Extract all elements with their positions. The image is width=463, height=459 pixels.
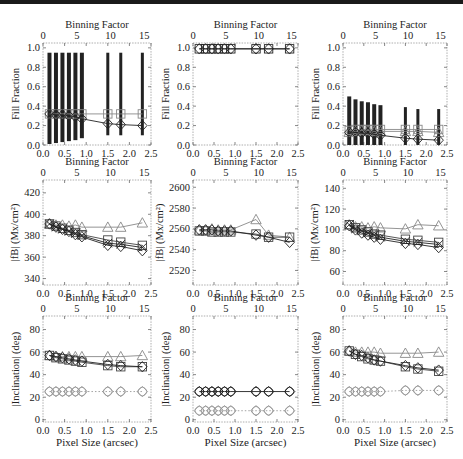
top-tick-label: 15 bbox=[435, 30, 446, 41]
y-tick-label: 80 bbox=[330, 324, 341, 335]
top-tick-label: 15 bbox=[435, 167, 446, 178]
y-tick-label: 0 bbox=[35, 414, 40, 425]
top-tick-label: 0 bbox=[190, 303, 195, 314]
x-tick-label: 1.0 bbox=[228, 425, 241, 436]
x-tick-label: 2.5 bbox=[291, 288, 304, 299]
y-tick-label: 0.4 bbox=[27, 101, 41, 112]
y-tick-label: 1.0 bbox=[177, 42, 190, 53]
y-axis-title: |Inclination| (deg) bbox=[160, 331, 172, 406]
y-tick-label: 380 bbox=[24, 230, 40, 241]
y-tick-label: 0.2 bbox=[177, 120, 190, 131]
top-axis-title: Binning Factor bbox=[214, 292, 278, 303]
top-tick-label: 15 bbox=[286, 30, 297, 41]
x-tick-label: 0.0 bbox=[36, 425, 49, 436]
y-axis-title: |fB| (Mx/cm²) bbox=[9, 203, 21, 261]
plot-frame bbox=[43, 43, 151, 145]
y-tick-label: 0.6 bbox=[177, 81, 190, 92]
top-tick-label: 15 bbox=[286, 303, 297, 314]
y-tick-label: 0.8 bbox=[327, 62, 340, 73]
y-tick-label: 1.0 bbox=[327, 42, 340, 53]
x-tick-label: 2.5 bbox=[440, 425, 453, 436]
top-tick-label: 10 bbox=[403, 167, 414, 178]
y-tick-label: 60 bbox=[330, 266, 341, 277]
x-tick-label: 1.5 bbox=[101, 425, 114, 436]
top-tick-label: 0 bbox=[40, 167, 45, 178]
y-tick-label: 0.2 bbox=[327, 120, 340, 131]
panel-row2-col1: 0.00.51.01.52.02.5051015Binning Factor34… bbox=[9, 156, 158, 299]
top-tick-label: 10 bbox=[253, 167, 264, 178]
y-tick-label: 40 bbox=[330, 369, 341, 380]
panel-row2-col2: 0.00.51.01.52.02.5051015Binning Factor25… bbox=[154, 156, 305, 299]
y-tick-label: 360 bbox=[24, 252, 40, 263]
y-tick-label: 0.6 bbox=[327, 81, 340, 92]
x-tick-label: 0.5 bbox=[58, 425, 71, 436]
y-axis-title: Fill Fraction bbox=[10, 67, 21, 120]
top-axis-title: Binning Factor bbox=[363, 19, 427, 30]
y-tick-label: 20 bbox=[180, 392, 191, 403]
top-tick-label: 10 bbox=[403, 30, 414, 41]
y-tick-label: 0 bbox=[185, 414, 190, 425]
top-tick-label: 0 bbox=[190, 30, 195, 41]
y-tick-label: 2520 bbox=[169, 265, 190, 276]
x-tick-label: 0.0 bbox=[186, 288, 199, 299]
y-tick-label: 340 bbox=[24, 273, 40, 284]
x-axis-title: Pixel Size (arcsec) bbox=[56, 436, 138, 449]
top-tick-label: 10 bbox=[105, 303, 116, 314]
y-tick-label: 2600 bbox=[169, 182, 190, 193]
y-tick-label: 2540 bbox=[169, 244, 190, 255]
top-tick-label: 5 bbox=[373, 30, 378, 41]
panel-row1-col3: 0.00.51.01.52.02.5051015Binning Factor0.… bbox=[310, 19, 454, 159]
top-tick-label: 5 bbox=[373, 303, 378, 314]
x-tick-label: 0.0 bbox=[336, 425, 349, 436]
top-tick-label: 15 bbox=[139, 167, 150, 178]
x-tick-label: 0.0 bbox=[186, 425, 199, 436]
top-tick-label: 15 bbox=[139, 303, 150, 314]
top-tick-label: 0 bbox=[40, 303, 45, 314]
x-tick-label: 2.5 bbox=[291, 425, 304, 436]
top-axis-title: Binning Factor bbox=[363, 292, 427, 303]
y-tick-label: 0 bbox=[335, 414, 340, 425]
y-tick-label: 2560 bbox=[169, 223, 190, 234]
panel-row3-col1: 0.00.51.01.52.02.5051015Binning Factor02… bbox=[10, 292, 158, 449]
top-tick-label: 0 bbox=[340, 30, 345, 41]
plot-frame bbox=[193, 316, 298, 422]
y-tick-label: 0.0 bbox=[27, 140, 40, 151]
y-tick-label: 120 bbox=[324, 204, 340, 215]
y-tick-label: 80 bbox=[180, 324, 191, 335]
y-tick-label: 60 bbox=[30, 347, 41, 358]
y-tick-label: 40 bbox=[30, 369, 41, 380]
top-tick-label: 15 bbox=[286, 167, 297, 178]
top-tick-label: 0 bbox=[340, 167, 345, 178]
y-axis-title: |fB| (Mx/cm²) bbox=[309, 203, 321, 261]
y-tick-label: 0.4 bbox=[327, 101, 341, 112]
x-tick-label: 1.5 bbox=[399, 425, 412, 436]
y-tick-label: 0.8 bbox=[27, 62, 40, 73]
top-tick-label: 10 bbox=[105, 30, 116, 41]
x-tick-label: 2.5 bbox=[144, 148, 157, 159]
y-tick-label: 140 bbox=[324, 183, 340, 194]
series-triangles bbox=[49, 355, 142, 356]
top-axis-title: Binning Factor bbox=[65, 292, 129, 303]
x-tick-label: 1.0 bbox=[80, 425, 93, 436]
y-tick-label: 20 bbox=[30, 392, 41, 403]
y-tick-label: 60 bbox=[180, 347, 191, 358]
plot-frame bbox=[43, 316, 151, 422]
y-axis-title: |fB| (Mx/cm²) bbox=[154, 203, 166, 261]
y-axis-title: Fill Fraction bbox=[310, 67, 321, 120]
y-tick-label: 100 bbox=[324, 224, 340, 235]
top-tick-label: 10 bbox=[105, 167, 116, 178]
y-tick-label: 1.0 bbox=[27, 42, 40, 53]
top-tick-label: 5 bbox=[74, 30, 79, 41]
top-tick-label: 0 bbox=[40, 30, 45, 41]
top-tick-label: 5 bbox=[223, 30, 228, 41]
top-axis-title: Binning Factor bbox=[214, 19, 278, 30]
top-tick-label: 0 bbox=[190, 167, 195, 178]
y-tick-label: 40 bbox=[180, 369, 191, 380]
top-tick-label: 5 bbox=[373, 167, 378, 178]
x-tick-label: 2.5 bbox=[440, 148, 453, 159]
top-tick-label: 0 bbox=[340, 303, 345, 314]
y-tick-label: 400 bbox=[24, 209, 40, 220]
y-tick-label: 20 bbox=[330, 392, 341, 403]
top-tick-label: 10 bbox=[253, 30, 264, 41]
y-tick-label: 0.2 bbox=[27, 120, 40, 131]
